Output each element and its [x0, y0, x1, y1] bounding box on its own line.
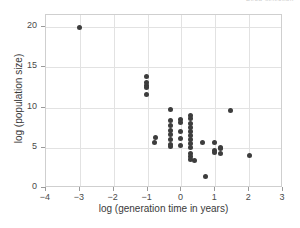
y-axis-tick — [41, 147, 45, 148]
scatter-point — [188, 145, 193, 150]
x-axis-tick — [147, 187, 148, 191]
scatter-point — [200, 140, 205, 145]
scatter-point — [247, 153, 252, 158]
plot-area — [45, 14, 282, 187]
x-axis-tick-label: −2 — [103, 192, 123, 202]
x-axis-tick-label: 1 — [204, 192, 224, 202]
scatter-chart-figure: −4−3−2−1012305101520 log (generation tim… — [0, 0, 300, 228]
x-axis-tick — [248, 187, 249, 191]
x-axis-tick — [214, 187, 215, 191]
y-axis-tick-label: 0 — [15, 181, 37, 191]
scatter-point — [228, 108, 233, 113]
scatter-point — [168, 144, 173, 149]
x-axis-tick — [282, 187, 283, 191]
x-axis-tick-label: 3 — [272, 192, 292, 202]
scatter-point — [178, 120, 183, 125]
scatter-point — [178, 129, 183, 134]
x-axis-tick-label: −4 — [35, 192, 55, 202]
scatter-point — [212, 150, 217, 155]
scatter-point — [152, 140, 157, 145]
scatter-point — [77, 25, 82, 30]
scatter-point — [144, 92, 149, 97]
scatter-point — [153, 135, 158, 140]
x-axis-tick-label: 0 — [170, 192, 190, 202]
scatter-point — [168, 107, 173, 112]
x-axis-tick — [180, 187, 181, 191]
data-points-layer — [46, 15, 281, 186]
scatter-point — [218, 151, 223, 156]
y-axis-tick — [41, 187, 45, 188]
scatter-point — [168, 123, 173, 128]
scatter-point — [144, 74, 149, 79]
scatter-point — [212, 140, 217, 145]
y-axis-tick — [41, 107, 45, 108]
scatter-point — [203, 174, 208, 179]
scatter-point — [178, 136, 183, 141]
y-axis-label: log (population size) — [13, 19, 24, 179]
x-axis-label: log (generation time in years) — [45, 203, 282, 214]
x-axis-tick-label: −3 — [69, 192, 89, 202]
scatter-point — [192, 158, 197, 163]
x-axis-tick — [79, 187, 80, 191]
x-axis-tick — [45, 187, 46, 191]
x-axis-tick-label: 2 — [238, 192, 258, 202]
x-axis-tick-label: −1 — [137, 192, 157, 202]
x-axis-tick — [113, 187, 114, 191]
scatter-point — [144, 85, 149, 90]
y-axis-tick — [41, 66, 45, 67]
y-axis-tick — [41, 26, 45, 27]
scatter-point — [178, 143, 183, 148]
